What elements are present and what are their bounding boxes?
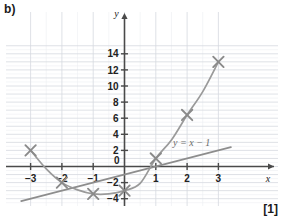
origin-label: 0: [114, 155, 120, 166]
grid-major: [6, 12, 278, 206]
y-axis-label: y: [113, 8, 119, 19]
x-tick-label: −3: [25, 173, 37, 184]
line-equation: y = x − 1: [172, 137, 210, 148]
y-tick-label: 12: [107, 65, 119, 76]
x-tick-label: 1: [153, 173, 159, 184]
y-tick-label: 6: [113, 113, 119, 124]
y-tick-label: 10: [107, 81, 119, 92]
y-tick-label: 8: [113, 97, 119, 108]
x-tick-label: 2: [184, 173, 190, 184]
grid-minor: [6, 12, 278, 206]
y-tick-label: 14: [107, 48, 119, 59]
coordinate-graph: −3−2−1123−4−224681012140 xy y = x − 1: [0, 0, 282, 218]
x-tick-label: 3: [216, 173, 222, 184]
chart-annotations: y = x − 1: [172, 137, 210, 148]
graph-question-panel: b) [1] −3−2−1123−4−224681012140 xy y = x…: [0, 0, 282, 218]
y-tick-label: −4: [107, 193, 119, 204]
x-axis-label: x: [265, 173, 271, 184]
y-tick-label: 4: [113, 129, 119, 140]
